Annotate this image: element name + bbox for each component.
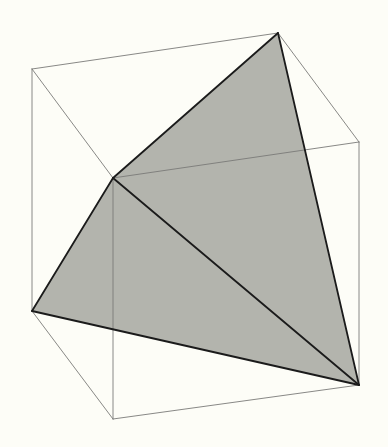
cube-edge [113,385,359,419]
cube-tetrahedron-diagram [0,0,388,447]
cube-edge [32,69,113,178]
shaded-tetrahedron [32,33,359,385]
cube-edge [32,33,278,69]
